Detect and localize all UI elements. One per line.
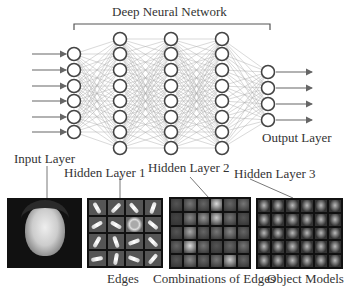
edge-filter bbox=[108, 217, 125, 232]
edge-filter bbox=[89, 234, 106, 249]
hidden2-node bbox=[165, 33, 178, 46]
edge-filter bbox=[108, 251, 125, 266]
object-filter bbox=[272, 214, 284, 226]
object-filter bbox=[258, 228, 270, 240]
hidden3-node bbox=[216, 48, 229, 61]
hidden1-node bbox=[114, 80, 127, 93]
edge-filter bbox=[89, 217, 106, 232]
object-filter bbox=[258, 255, 270, 267]
combination-filter bbox=[224, 227, 235, 239]
combination-filter bbox=[238, 227, 249, 239]
combination-filter bbox=[171, 241, 182, 253]
hidden2-node bbox=[165, 64, 178, 77]
hidden3-node bbox=[216, 126, 229, 139]
combination-filter bbox=[211, 199, 222, 211]
input-node bbox=[68, 126, 81, 139]
edge-filter bbox=[145, 234, 162, 249]
combination-filter bbox=[184, 199, 195, 211]
edge-filter bbox=[145, 200, 162, 215]
edge-filter bbox=[108, 200, 125, 215]
combination-filter bbox=[171, 227, 182, 239]
combination-filter bbox=[171, 255, 182, 267]
combination-filter bbox=[184, 241, 195, 253]
output-node bbox=[262, 66, 275, 79]
edge-filter bbox=[108, 234, 125, 249]
hidden2-node bbox=[165, 142, 178, 155]
object-filter bbox=[286, 255, 298, 267]
pointer-h2 bbox=[190, 177, 209, 198]
network-bracket bbox=[74, 24, 270, 30]
combination-filter bbox=[211, 227, 222, 239]
combination-filter bbox=[211, 241, 222, 253]
edge-filter bbox=[126, 251, 143, 266]
combination-filter bbox=[238, 241, 249, 253]
combination-filter bbox=[224, 199, 235, 211]
input-node bbox=[68, 95, 81, 108]
combination-filter bbox=[171, 213, 182, 225]
output-node bbox=[262, 98, 275, 111]
combination-filter bbox=[198, 213, 209, 225]
hidden2-node bbox=[165, 111, 178, 124]
combination-filter bbox=[211, 213, 222, 225]
hidden1-node bbox=[114, 64, 127, 77]
combination-filter bbox=[224, 255, 235, 267]
hidden1-node bbox=[114, 111, 127, 124]
object-filter bbox=[315, 200, 327, 212]
edge-filter bbox=[89, 200, 106, 215]
object-filter bbox=[301, 228, 313, 240]
edge-filter bbox=[126, 234, 143, 249]
combination-filter bbox=[238, 213, 249, 225]
object-filter bbox=[329, 255, 341, 267]
combination-filter bbox=[184, 255, 195, 267]
object-filter bbox=[286, 228, 298, 240]
object-filter bbox=[329, 241, 341, 253]
hidden1-node bbox=[114, 142, 127, 155]
edges-caption: Edges bbox=[107, 271, 139, 287]
hidden2-node bbox=[165, 48, 178, 61]
edge-filter bbox=[89, 251, 106, 266]
hidden3-node bbox=[216, 142, 229, 155]
object-filter bbox=[329, 200, 341, 212]
combination-filter bbox=[184, 213, 195, 225]
combination-filter bbox=[198, 199, 209, 211]
object-filter bbox=[258, 200, 270, 212]
combinations-caption: Combinations of Edges bbox=[153, 271, 275, 287]
edge-combinations-image bbox=[169, 197, 251, 269]
hidden3-node bbox=[216, 33, 229, 46]
face-image bbox=[7, 198, 82, 268]
input-node bbox=[68, 111, 81, 124]
object-filter bbox=[286, 214, 298, 226]
hidden2-node bbox=[165, 95, 178, 108]
object-filter bbox=[286, 200, 298, 212]
combination-filter bbox=[238, 255, 249, 267]
object-filter bbox=[272, 241, 284, 253]
edge-filter bbox=[145, 217, 162, 232]
object-filter bbox=[286, 241, 298, 253]
hidden3-node bbox=[216, 80, 229, 93]
input-node bbox=[68, 80, 81, 93]
edge-filter bbox=[126, 200, 143, 215]
object-filter bbox=[315, 241, 327, 253]
hidden2-node bbox=[165, 80, 178, 93]
edge-filter bbox=[126, 217, 143, 232]
combination-filter bbox=[198, 241, 209, 253]
hidden3-node bbox=[216, 95, 229, 108]
combination-filter bbox=[224, 241, 235, 253]
input-node bbox=[68, 48, 81, 61]
object-filter bbox=[258, 214, 270, 226]
hidden1-node bbox=[114, 33, 127, 46]
objects-caption: Object Models bbox=[267, 271, 344, 287]
object-filter bbox=[272, 228, 284, 240]
object-filter bbox=[258, 241, 270, 253]
combination-filter bbox=[238, 199, 249, 211]
object-filter bbox=[301, 214, 313, 226]
object-filter bbox=[301, 255, 313, 267]
object-filter bbox=[315, 214, 327, 226]
combination-filter bbox=[198, 227, 209, 239]
object-filter bbox=[315, 255, 327, 267]
hidden2-node bbox=[165, 126, 178, 139]
combination-filter bbox=[211, 255, 222, 267]
edge-filter bbox=[145, 251, 162, 266]
object-filter bbox=[272, 200, 284, 212]
hidden3-node bbox=[216, 64, 229, 77]
